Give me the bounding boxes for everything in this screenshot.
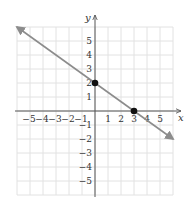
- x-axis-label: x: [178, 112, 184, 123]
- y-tick-label: 4: [86, 50, 92, 60]
- x-tick-label: 2: [118, 114, 124, 124]
- data-point: [131, 108, 138, 115]
- y-tick-label: −3: [79, 148, 93, 158]
- y-tick-label: −1: [79, 120, 92, 130]
- y-tick-label: 3: [86, 64, 92, 74]
- coordinate-plane: −5−4−3−2−11234554321−1−2−3−4−5 x y: [0, 0, 194, 203]
- x-tick-label: 5: [157, 114, 163, 124]
- data-point: [92, 80, 99, 87]
- x-tick-label: −5: [22, 114, 36, 124]
- y-tick-label: 5: [86, 36, 92, 46]
- y-tick-label: −5: [79, 176, 93, 186]
- y-tick-label: −4: [79, 162, 93, 172]
- x-tick-label: 1: [105, 114, 111, 124]
- y-axis-label: y: [84, 12, 91, 23]
- x-tick-label: −3: [48, 114, 62, 124]
- x-tick-label: 3: [131, 114, 137, 124]
- x-tick-label: −2: [61, 114, 74, 124]
- y-tick-label: −2: [79, 134, 92, 144]
- y-tick-label: 1: [86, 92, 92, 102]
- x-tick-label: −4: [35, 114, 49, 124]
- axes: [15, 15, 181, 197]
